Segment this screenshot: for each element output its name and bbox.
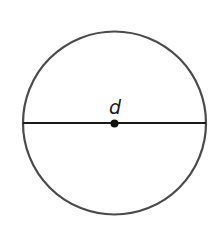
center-point (111, 120, 119, 128)
diameter-label: d (109, 96, 122, 118)
circle-diagram: d (0, 0, 218, 246)
